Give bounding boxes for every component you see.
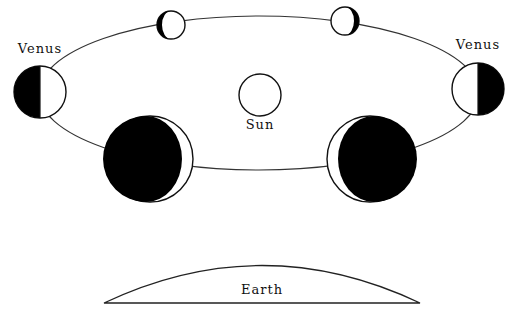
earth-label: Earth [241,282,283,297]
venus-right-label: Venus [455,37,500,52]
venus-left-label: Venus [17,41,62,56]
venus-top-left-icon [157,11,185,39]
venus-top-right-icon [331,7,359,35]
sun-icon [239,74,281,116]
sun-label: Sun [246,117,275,132]
venus-right-icon [452,63,504,115]
venus-bottom-right-icon [327,116,417,202]
venus-bottom-left-icon [103,116,193,202]
venus-left-icon [14,66,66,118]
venus-phases-diagram: Sun Venus Venus Earth [0,0,516,314]
